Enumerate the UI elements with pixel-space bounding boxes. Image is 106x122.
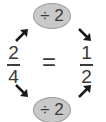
left-numerator: 2 (8, 43, 19, 63)
bottom-divide-label: ÷ 2 (40, 100, 64, 120)
arrow-up-right-icon (77, 83, 93, 99)
right-fraction: 1 2 (80, 43, 93, 87)
arrow-up-right-icon (14, 27, 30, 43)
left-fraction: 2 4 (7, 43, 20, 87)
arrow-down-right-icon (77, 27, 93, 43)
top-divide-oval: ÷ 2 (33, 3, 71, 29)
right-numerator: 1 (81, 43, 92, 63)
bottom-divide-oval: ÷ 2 (33, 97, 71, 122)
top-divide-label: ÷ 2 (40, 6, 64, 26)
arrow-down-right-icon (14, 83, 30, 99)
equals-sign: = (42, 52, 56, 72)
